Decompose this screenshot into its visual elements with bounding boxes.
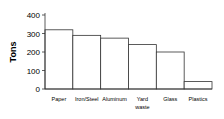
bar-glass (156, 52, 184, 89)
x-category-label: Yard (137, 96, 148, 102)
y-tick-label: 400 (27, 11, 41, 20)
y-axis-label: Tons (8, 42, 18, 63)
bar-paper (45, 30, 73, 89)
x-category-label: Aluminum (102, 96, 127, 102)
x-category-label: Plastics (189, 96, 208, 102)
bar-chart: Tons 0100200300400 PaperIron/SteelAlumin… (0, 0, 224, 119)
bars (45, 30, 212, 89)
x-category-label: Paper (52, 96, 67, 102)
y-tick-label: 300 (27, 30, 41, 39)
y-tick-label: 100 (27, 67, 41, 76)
bar-plastics (184, 82, 212, 89)
y-axis-ticks: 0100200300400 (27, 11, 45, 94)
bar-yard-waste (129, 45, 157, 89)
x-axis-labels: PaperIron/SteelAluminumYardwasteGlassPla… (52, 96, 208, 110)
y-tick-label: 200 (27, 48, 41, 57)
x-category-label: Iron/Steel (75, 96, 99, 102)
bar-iron-steel (73, 35, 101, 89)
x-category-label: waste (134, 104, 149, 110)
y-tick-label: 0 (36, 85, 41, 94)
x-category-label: Glass (163, 96, 177, 102)
bar-aluminum (101, 38, 129, 89)
